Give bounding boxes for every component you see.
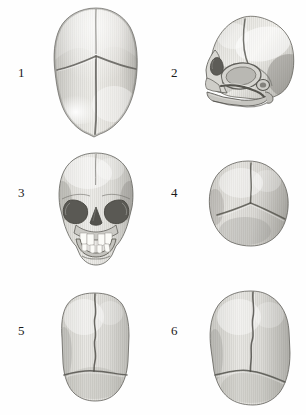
figure-panel-6: 6	[153, 283, 306, 415]
skull-lateral-view-illustration	[193, 0, 306, 145]
figure-label-6: 6	[171, 324, 178, 337]
figure-grid: 1	[0, 0, 306, 415]
figure-label-5: 5	[18, 324, 25, 337]
figure-label-1: 1	[18, 66, 25, 79]
figure-panel-5: 5	[0, 283, 153, 415]
figure-label-2: 2	[171, 66, 178, 79]
figure-label-4: 4	[171, 186, 178, 199]
figure-label-3: 3	[18, 186, 25, 199]
skull-superior-broad-illustration	[193, 283, 306, 415]
skull-superior-elongated-illustration	[40, 283, 153, 415]
illustration-plate: 1	[0, 0, 306, 415]
skull-superior-view-illustration	[40, 0, 153, 145]
figure-panel-3: 3	[0, 145, 153, 283]
figure-panel-2: 2	[153, 0, 306, 145]
skull-anterior-view-illustration	[40, 145, 153, 283]
skull-posterior-view-illustration	[193, 145, 306, 283]
figure-panel-1: 1	[0, 0, 153, 145]
figure-panel-4: 4	[153, 145, 306, 283]
